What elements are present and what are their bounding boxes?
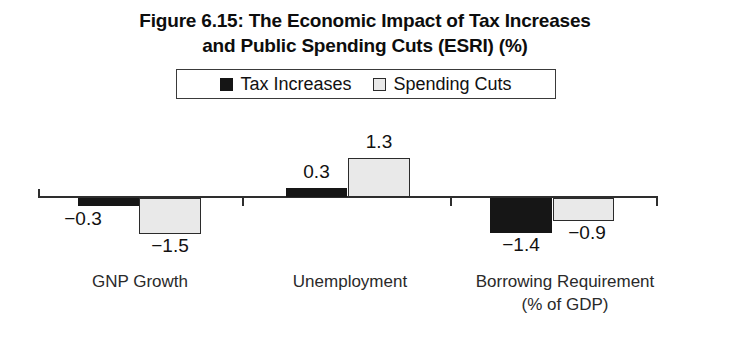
value-label-spending-cuts-unemployment: 1.3 (348, 131, 410, 153)
bar-tax-increases-gnp-growth (78, 198, 139, 206)
white-square-icon (373, 78, 386, 91)
legend-item-tax-increases: Tax Increases (220, 74, 351, 95)
category-label-borrowing: Borrowing Requirement (% of GDP) (440, 270, 690, 316)
chart-title-line-1: Figure 6.15: The Economic Impact of Tax … (0, 8, 730, 33)
bar-tax-increases-unemployment (286, 188, 347, 197)
chart-legend: Tax Increases Spending Cuts (176, 69, 556, 99)
black-square-icon (220, 78, 233, 91)
value-label-tax-increases-borrowing: −1.4 (490, 234, 552, 256)
axis-tick-end (656, 197, 658, 206)
legend-label-tax-increases: Tax Increases (240, 74, 351, 95)
axis-tick-start (38, 189, 40, 198)
bar-spending-cuts-gnp-growth (139, 198, 201, 234)
chart-title-line-2: and Public Spending Cuts (ESRI) (%) (0, 33, 730, 58)
category-label-borrowing-line-1: Borrowing Requirement (440, 270, 690, 293)
bar-spending-cuts-unemployment (348, 158, 410, 197)
chart-plot-area: −0.3 −1.5 0.3 1.3 −1.4 −0.9 GNP Growth U… (0, 104, 730, 352)
value-label-tax-increases-unemployment: 0.3 (286, 161, 347, 183)
value-label-tax-increases-gnp-growth: −0.3 (53, 208, 113, 230)
bar-tax-increases-borrowing (490, 198, 552, 233)
category-label-borrowing-line-2: (% of GDP) (440, 293, 690, 316)
legend-item-spending-cuts: Spending Cuts (373, 74, 511, 95)
category-label-unemployment: Unemployment (265, 270, 435, 293)
value-label-spending-cuts-borrowing: −0.9 (556, 222, 618, 244)
axis-tick-category-2 (450, 197, 452, 206)
category-label-gnp-growth: GNP Growth (60, 270, 220, 293)
value-label-spending-cuts-gnp-growth: −1.5 (139, 235, 201, 257)
chart-title: Figure 6.15: The Economic Impact of Tax … (0, 8, 730, 58)
bar-spending-cuts-borrowing (553, 198, 614, 221)
legend-label-spending-cuts: Spending Cuts (393, 74, 511, 95)
axis-tick-category-1 (242, 197, 244, 206)
